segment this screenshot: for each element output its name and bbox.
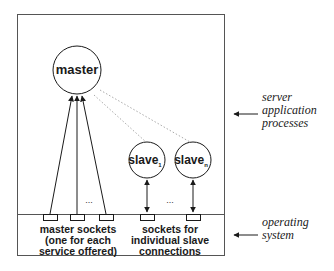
diagram-canvas: master slave1 slaven ... ... master sock…	[0, 0, 334, 271]
master-socket-1	[44, 215, 58, 221]
svg-text:service offered): service offered)	[39, 245, 117, 257]
svg-text:server: server	[262, 90, 292, 104]
svg-text:application: application	[262, 103, 317, 117]
slave-socket-n	[187, 215, 201, 221]
master-label: master	[56, 62, 99, 77]
slave-1-label: slave1	[128, 153, 162, 168]
slave-n-node: slaven	[174, 142, 211, 178]
master-arrow-1	[50, 96, 72, 214]
slave-n-label: slaven	[174, 153, 208, 168]
svg-text:connections: connections	[139, 245, 201, 257]
slave-1-node: slave1	[128, 142, 165, 178]
svg-text:operating: operating	[262, 215, 309, 229]
master-sockets-caption: master sockets (one for each service off…	[39, 223, 117, 257]
master-socket-2	[71, 215, 85, 221]
master-node: master	[53, 46, 101, 94]
svg-text:system: system	[262, 228, 294, 242]
dotted-link-slave1	[94, 95, 146, 142]
slave-ellipsis: ...	[166, 195, 174, 205]
master-socket-3	[100, 215, 114, 221]
slave-socket-1	[141, 215, 155, 221]
sockets	[44, 215, 201, 221]
master-ellipsis: ...	[85, 195, 93, 205]
slave-sockets-caption: sockets for individual slave connections	[131, 223, 209, 257]
dotted-link-slaven	[100, 90, 190, 142]
server-processes-label: server application processes	[261, 90, 317, 130]
svg-text:processes: processes	[261, 116, 309, 130]
operating-system-label: operating system	[262, 215, 309, 242]
